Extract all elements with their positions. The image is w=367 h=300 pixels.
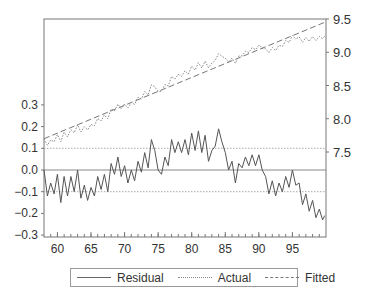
x-tick-label: 85 [219,242,233,256]
x-tick-label: 95 [286,242,300,256]
legend-label-actual: Actual [218,271,251,285]
right-tick-label: 8.5 [333,79,351,94]
x-tick-label: 90 [252,242,266,256]
right-tick-label: 7.5 [333,145,351,160]
chart-legend: Residual Actual Fitted [70,268,298,287]
actual-series-line [44,36,325,146]
legend-label-fitted: Fitted [305,271,335,285]
left-tick-label: 0.1 [21,141,38,155]
x-tick-label: 70 [118,242,132,256]
legend-label-residual: Residual [117,271,164,285]
residual-actual-fitted-chart: 0.30.20.10.0−0.1−0.2−0.3 9.59.08.58.07.5… [0,0,367,300]
left-tick-label: −0.3 [14,228,38,242]
left-axis: 0.30.20.10.0−0.1−0.2−0.3 [14,98,44,242]
left-tick-label: −0.1 [14,185,38,199]
left-tick-label: 0.3 [21,98,38,112]
left-tick-label: −0.2 [14,206,38,220]
left-tick-label: 0.2 [21,120,38,134]
left-tick-label: 0.0 [21,163,38,177]
x-tick-label: 75 [151,242,165,256]
legend-item-fitted: Fitted [265,271,335,285]
x-tick-label: 65 [84,242,98,256]
dashed-line-swatch-icon [265,277,299,278]
residual-series-line [44,129,325,220]
fitted-series-line [44,22,325,138]
x-tick-label: 60 [51,242,65,256]
x-tick-label: 80 [185,242,199,256]
right-axis: 9.59.08.58.07.5 [326,12,351,160]
x-axis: 6065707580859095 [51,232,320,256]
right-tick-label: 8.0 [333,112,351,127]
dotted-line-swatch-icon [178,277,212,278]
right-tick-label: 9.0 [333,45,351,60]
right-tick-label: 9.5 [333,12,351,27]
legend-item-residual: Residual [77,271,164,285]
solid-line-swatch-icon [77,277,111,278]
legend-item-actual: Actual [178,271,251,285]
